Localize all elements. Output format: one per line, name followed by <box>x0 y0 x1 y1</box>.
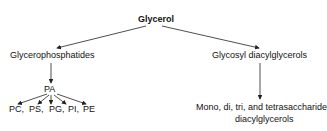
right-branch-label: Glycosyl diacylglycerols <box>212 50 307 61</box>
product-ps: PS, <box>29 104 44 115</box>
arrow-pa-to-pe <box>57 94 86 104</box>
right-product-line2: diacylglycerols <box>235 114 294 125</box>
left-branch-label: Glycerophosphatides <box>10 50 95 61</box>
intermediate-label: PA <box>44 84 55 95</box>
arrow-root-to-right <box>162 26 259 48</box>
right-product-line1: Mono, di, tri, and tetrasaccharide <box>196 102 327 113</box>
arrow-pa-to-pc <box>18 94 47 104</box>
product-pi: PI, <box>68 104 79 115</box>
product-pe: PE <box>83 104 95 115</box>
product-pg: PG, <box>49 104 65 115</box>
product-pc: PC, <box>9 104 24 115</box>
root-label: Glycerol <box>138 14 174 25</box>
arrow-root-to-left <box>57 26 146 48</box>
